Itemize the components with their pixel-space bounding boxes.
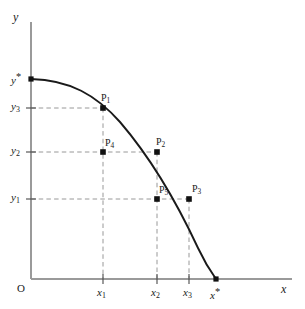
axes-lines <box>31 22 292 279</box>
y-star-mark: * <box>16 71 21 82</box>
P5-sub: 5 <box>165 188 169 197</box>
y-tick-label-y2: y2 <box>11 145 20 158</box>
x-tick-label-x-star: x* <box>210 287 220 301</box>
P2-sub: 2 <box>162 140 166 149</box>
x-tick-label-x2: x2 <box>151 287 160 300</box>
marker-P1 <box>100 105 106 111</box>
marker-y-star <box>28 76 33 81</box>
point-label-P4: P4 <box>105 138 114 149</box>
frontier-curve <box>31 79 216 279</box>
intercept-markers <box>28 76 218 281</box>
marker-P3 <box>186 196 192 202</box>
P3-sub: 3 <box>198 187 202 196</box>
figure-canvas: y x O y* y3 y2 y1 x1 x2 x3 x* P1 P2 P3 P… <box>0 0 305 309</box>
x1-sub: 1 <box>102 291 106 300</box>
y3-sub: 3 <box>16 105 20 114</box>
P1-sub: 1 <box>107 96 111 105</box>
point-label-P1: P1 <box>101 93 110 104</box>
y-tick-label-y-star: y* <box>11 72 21 86</box>
y-tick-label-y1: y1 <box>11 192 20 205</box>
y2-sub: 2 <box>16 149 20 158</box>
x3-sub: 3 <box>188 291 192 300</box>
P4-sub: 4 <box>111 141 115 150</box>
marker-P2 <box>154 149 160 155</box>
origin-label: O <box>17 283 25 294</box>
marker-P4 <box>100 149 106 155</box>
x-tick-label-x1: x1 <box>97 287 106 300</box>
x2-sub: 2 <box>156 291 160 300</box>
figure-graphics <box>0 0 305 309</box>
point-label-P2: P2 <box>156 137 165 148</box>
y-axis-label: y <box>13 11 18 23</box>
x-star-mark: * <box>215 286 220 297</box>
y-tick-label-y3: y3 <box>11 101 20 114</box>
point-label-P3: P3 <box>192 184 201 195</box>
point-markers <box>100 105 192 202</box>
marker-P5 <box>154 196 160 202</box>
point-label-P5: P5 <box>159 185 168 196</box>
y1-sub: 1 <box>16 196 20 205</box>
x-tick-label-x3: x3 <box>183 287 192 300</box>
x-axis-label: x <box>281 283 286 295</box>
marker-x-star <box>213 276 218 281</box>
